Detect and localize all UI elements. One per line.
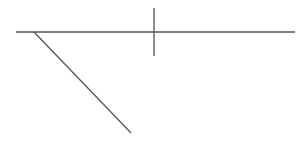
diagram-canvas [0,0,307,144]
